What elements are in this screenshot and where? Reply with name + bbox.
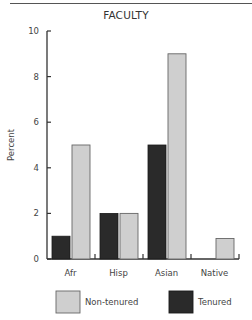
legend-swatch-tenured [169, 291, 193, 313]
legend-label-tenured: Tenured [197, 297, 232, 307]
bar-non-tenured-native [216, 238, 234, 259]
y-axis-label: Percent [6, 128, 16, 161]
x-category-label: Hisp [109, 268, 128, 278]
bar-chart: 0246810PercentAfrHispAsianNativeNon-tenu… [0, 0, 252, 320]
x-category-label: Native [201, 268, 229, 278]
bar-tenured-asian [148, 145, 166, 259]
bar-non-tenured-asian [168, 54, 186, 259]
bar-non-tenured-hisp [120, 213, 138, 259]
y-tick-label: 2 [34, 208, 39, 218]
legend-label-non-tenured: Non-tenured [85, 297, 138, 307]
y-tick-label: 8 [34, 72, 39, 82]
bar-tenured-hisp [100, 213, 118, 259]
bar-tenured-afr [52, 236, 70, 259]
x-category-label: Asian [155, 268, 178, 278]
y-tick-label: 10 [28, 26, 39, 36]
y-tick-label: 4 [34, 163, 39, 173]
x-category-label: Afr [65, 268, 78, 278]
bar-non-tenured-afr [72, 145, 90, 259]
y-tick-label: 0 [34, 254, 39, 264]
legend-swatch-non-tenured [56, 291, 80, 313]
y-tick-label: 6 [34, 117, 39, 127]
